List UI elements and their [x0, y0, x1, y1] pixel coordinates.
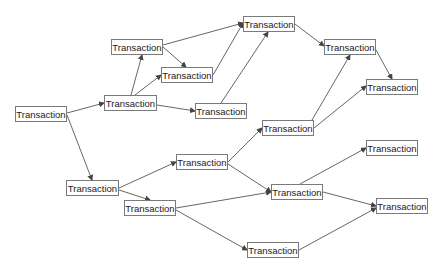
transaction-node: Transaction	[324, 39, 376, 55]
edge-arrow	[312, 55, 350, 120]
edge-arrow	[314, 86, 366, 128]
transaction-node: Transaction	[111, 39, 163, 55]
transaction-diagram: TransactionTransactionTransactionTransac…	[0, 0, 442, 272]
edge-arrow	[67, 115, 92, 180]
edge-arrow	[157, 105, 195, 111]
transaction-node: Transaction	[376, 198, 428, 214]
transaction-node: Transaction	[104, 95, 157, 111]
edge-arrow	[131, 55, 142, 95]
transaction-node: Transaction	[247, 242, 299, 258]
edge-arrow	[300, 148, 366, 184]
transaction-node: Transaction	[262, 120, 314, 136]
edge-arrow	[228, 128, 262, 162]
edge-arrow	[221, 32, 268, 103]
transaction-node: Transaction	[176, 154, 228, 170]
transaction-node: Transaction	[366, 140, 418, 156]
edge-arrow	[119, 190, 150, 200]
edge-arrow	[299, 208, 376, 250]
edge-arrow	[135, 75, 161, 95]
transaction-node: Transaction	[124, 200, 176, 216]
transaction-node: Transaction	[243, 16, 295, 32]
transaction-node: Transaction	[15, 106, 67, 122]
transaction-node: Transaction	[66, 180, 119, 196]
edge-arrow	[176, 210, 247, 250]
edge-arrow	[376, 50, 392, 79]
transaction-node: Transaction	[195, 103, 247, 119]
transaction-node: Transaction	[366, 79, 418, 95]
edge-arrow	[323, 192, 376, 206]
edge-arrow	[176, 192, 271, 208]
edge-arrow	[228, 164, 271, 192]
edge-arrow	[163, 23, 243, 45]
transaction-node: Transaction	[271, 184, 323, 200]
edge-arrow	[67, 103, 104, 113]
edge-arrow	[295, 24, 324, 46]
transaction-node: Transaction	[161, 67, 213, 83]
edge-arrow	[213, 23, 243, 75]
edge-arrow	[163, 47, 186, 67]
edge-arrow	[119, 162, 176, 188]
